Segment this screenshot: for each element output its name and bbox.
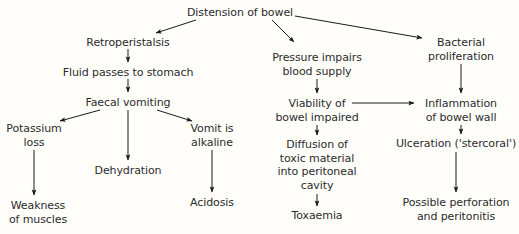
node-diffusion: Diffusion of toxic material into periton… bbox=[278, 138, 357, 192]
arrow-faecal-to-vomit bbox=[157, 110, 192, 121]
node-vomit: Vomit is alkaline bbox=[191, 122, 234, 149]
arrow-distension-to-retroperistalsis bbox=[156, 20, 196, 33]
node-weakness: Weakness of muscles bbox=[9, 199, 67, 226]
flowchart-diagram: Distension of bowelRetroperistalsisFluid… bbox=[0, 0, 519, 234]
node-acidosis: Acidosis bbox=[190, 196, 234, 210]
arrow-faecal-to-potassium bbox=[60, 110, 100, 121]
node-bacterial: Bacterial proliferation bbox=[428, 36, 494, 63]
node-toxaemia: Toxaemia bbox=[292, 209, 343, 223]
node-faecal: Faecal vomiting bbox=[85, 96, 170, 110]
node-perforation: Possible perforation and peritonitis bbox=[402, 196, 509, 223]
node-potassium: Potassium loss bbox=[6, 122, 61, 149]
node-fluid: Fluid passes to stomach bbox=[63, 66, 194, 80]
arrow-distension-to-pressure bbox=[272, 20, 294, 42]
node-pressure: Pressure impairs blood supply bbox=[272, 51, 362, 78]
node-inflammation: Inflammation of bowel wall bbox=[425, 97, 497, 124]
node-ulceration: Ulceration ('stercoral') bbox=[396, 137, 516, 151]
node-retroperistalsis: Retroperistalsis bbox=[86, 36, 169, 50]
node-distension: Distension of bowel bbox=[187, 6, 293, 20]
arrow-distension-to-bacterial bbox=[295, 16, 422, 38]
node-dehydration: Dehydration bbox=[95, 164, 162, 178]
node-viability: Viability of bowel impaired bbox=[275, 97, 358, 124]
